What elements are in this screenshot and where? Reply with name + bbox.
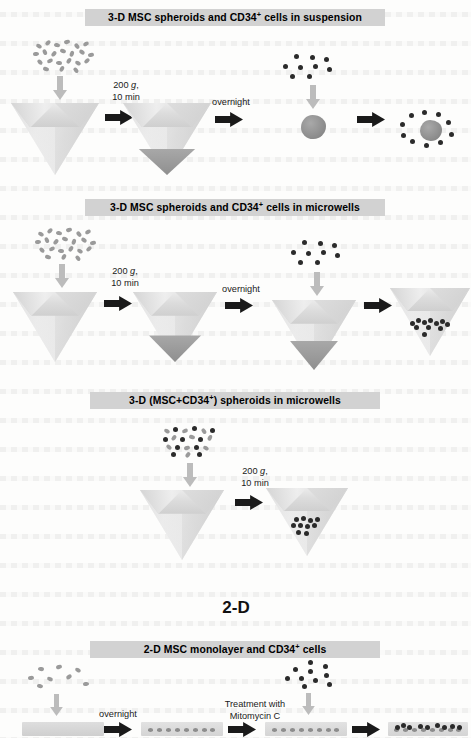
- banner-text-tail: cells in microwells: [263, 202, 360, 213]
- right-arrow-step-2: [215, 112, 243, 127]
- panel-banner-2d: 2-D MSC monolayer and CD34+ cells: [90, 641, 380, 658]
- section-heading-2d: 2-D: [186, 598, 286, 618]
- down-arrow-seed-msc: [53, 76, 67, 100]
- mixed-cell-cloud: [162, 426, 220, 458]
- step-label-line1: 200 g,: [113, 80, 139, 90]
- step-label-centrifuge-2: 200 g, 10 min: [94, 266, 156, 289]
- step-label-line1: Treatment with: [225, 699, 285, 709]
- msc-monolayer: [148, 727, 216, 732]
- down-arrow-seed-msc: [55, 264, 69, 288]
- msc-cell-cloud: [35, 228, 97, 260]
- step-label-line1: overnight: [212, 97, 250, 107]
- msc-cell-cloud: [33, 40, 95, 72]
- banner-text-tail: cells: [300, 644, 327, 655]
- microwell-with-mixed-spheroid: [266, 488, 348, 556]
- step-label-overnight-2: overnight: [208, 284, 274, 296]
- microwell-with-spheroid-and-cd34: [390, 288, 470, 356]
- step-label-line2: 10 min: [112, 92, 140, 102]
- msc-spheroid: [301, 115, 326, 139]
- step-label-line2: 10 min: [111, 278, 139, 288]
- cd34-cell-cloud: [280, 54, 336, 82]
- right-arrow-step-1: [104, 296, 132, 311]
- banner-text-main: 2-D MSC monolayer and CD34: [144, 644, 296, 655]
- banner-text-main: 3-D MSC spheroids and CD34: [110, 202, 259, 213]
- step-label-centrifuge-1: 200 g, 10 min: [95, 80, 157, 103]
- down-arrow-seed-mixed: [183, 463, 197, 487]
- dish-with-msc-monolayer: [141, 722, 223, 736]
- step-label-line1: 200 g,: [242, 466, 268, 476]
- banner-text-tail: ) spheroids in microwells: [214, 395, 341, 406]
- step-label-line2: 10 min: [241, 478, 269, 488]
- cd34-cell-cloud: [283, 660, 339, 690]
- banner-text-main: 3-D MSC spheroids and CD34: [108, 12, 257, 23]
- dish-with-cocultured-cells: [388, 722, 468, 736]
- right-arrow-step-1: [104, 722, 132, 737]
- empty-conical-tube: [11, 103, 99, 175]
- right-arrow-step-3: [364, 298, 392, 313]
- panel-banner-3d-mixed: 3-D (MSC+CD34+) spheroids in microwells: [90, 392, 380, 409]
- cd34-cell-cloud: [288, 240, 344, 268]
- step-label-centrifuge-3: 200 g, 10 min: [224, 466, 286, 489]
- down-arrow-seed-cd34: [310, 272, 324, 296]
- step-label-line1: 200 g,: [112, 266, 138, 276]
- experimental-design-figure: 3-D MSC spheroids and CD34+ cells in sus…: [0, 0, 471, 738]
- tube-with-msc-pellet: [123, 103, 211, 175]
- treated-msc-monolayer: [272, 727, 340, 732]
- right-arrow-step-3: [352, 722, 380, 737]
- dish-with-treated-monolayer: [265, 722, 347, 736]
- empty-microwell: [13, 292, 97, 362]
- microwell-with-spheroid: [272, 300, 356, 370]
- right-arrow-step-3: [357, 112, 385, 127]
- empty-culture-dish: [22, 722, 104, 736]
- down-arrow-seed-msc: [50, 694, 63, 716]
- right-arrow-step-2: [225, 298, 253, 313]
- banner-text-main: 3-D (MSC+CD34: [129, 395, 209, 406]
- panel-banner-3d-microwells: 3-D MSC spheroids and CD34+ cells in mic…: [85, 199, 385, 216]
- step-label-line1: overnight: [222, 284, 260, 294]
- banner-text-tail: cells in suspension: [261, 12, 362, 23]
- step-label-overnight-3: overnight: [85, 709, 151, 721]
- cd34-cell-clump: [410, 318, 452, 340]
- right-arrow-step-1: [235, 495, 263, 510]
- step-label-line1: overnight: [99, 709, 137, 719]
- msc-cell-cloud: [26, 665, 88, 689]
- empty-microwell: [140, 490, 224, 560]
- spheroid-with-cd34-cells: [398, 110, 464, 150]
- down-arrow-seed-cd34: [306, 85, 320, 109]
- cd34-cells-on-monolayer: [394, 723, 464, 732]
- down-arrow-seed-cd34: [302, 693, 315, 715]
- right-arrow-step-2: [228, 722, 256, 737]
- mixed-spheroid-clump: [290, 516, 324, 540]
- microwell-with-msc-pellet: [133, 292, 217, 362]
- step-label-line2: Mitomycin C: [230, 711, 281, 721]
- panel-banner-3d-suspension: 3-D MSC spheroids and CD34+ cells in sus…: [85, 9, 385, 26]
- step-label-mitomycin: Treatment with Mitomycin C: [205, 699, 305, 722]
- step-label-overnight-1: overnight: [198, 97, 264, 109]
